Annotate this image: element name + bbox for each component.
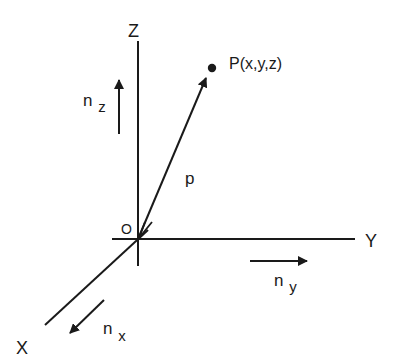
coordinate-diagram: Z Y X O p P(x,y,z) n z n y n x xyxy=(0,0,397,364)
position-vector-arrow xyxy=(138,78,206,239)
z-axis-label: Z xyxy=(128,21,139,41)
point-p-dot xyxy=(208,64,216,72)
x-axis xyxy=(45,230,148,325)
nx-arrow xyxy=(70,300,104,333)
point-p-label: P(x,y,z) xyxy=(229,55,282,72)
nx-label: n x xyxy=(103,319,126,344)
ny-label: n y xyxy=(274,271,297,295)
nz-label: n z xyxy=(83,91,106,115)
position-vector-label: p xyxy=(185,169,194,188)
origin-label: O xyxy=(121,221,132,237)
y-axis-label: Y xyxy=(365,231,377,251)
x-axis-label: X xyxy=(16,338,28,358)
